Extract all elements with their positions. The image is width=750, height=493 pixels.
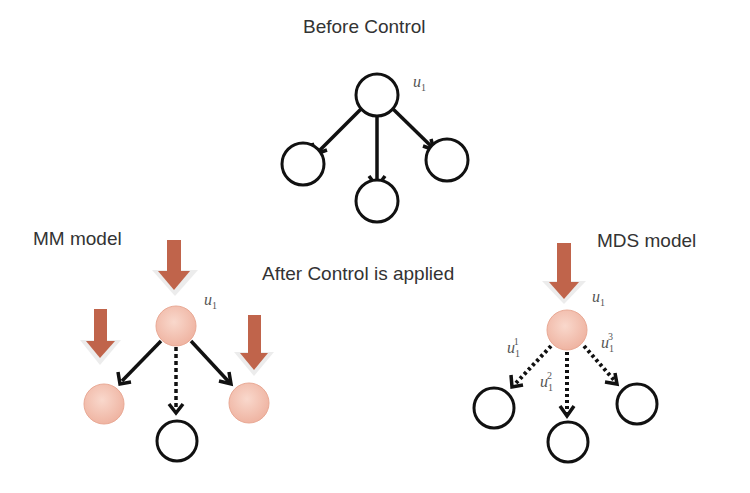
edge-top-left bbox=[318, 108, 362, 152]
node-child-middle bbox=[157, 421, 197, 461]
edge-top-right bbox=[392, 108, 433, 148]
label-u1-superscript-2: u12 bbox=[540, 370, 553, 393]
mds-model-graph: u1 u11 u12 u13 bbox=[474, 243, 657, 462]
label-u1: u1 bbox=[204, 291, 217, 311]
diagram-canvas: u1 u1 bbox=[0, 0, 750, 493]
control-arrow-icon bbox=[80, 309, 121, 365]
node-child-left bbox=[282, 143, 324, 185]
node-u1-controlled bbox=[156, 306, 196, 346]
control-arrow-icon bbox=[542, 243, 586, 304]
node-u1 bbox=[356, 74, 398, 116]
node-child-right bbox=[617, 384, 657, 424]
node-child-middle bbox=[548, 422, 588, 462]
edge-solid-right bbox=[191, 341, 229, 382]
control-arrow-icon bbox=[152, 240, 198, 296]
label-u1: u1 bbox=[592, 288, 605, 308]
label-u1-superscript-3: u13 bbox=[601, 331, 614, 354]
node-child-right bbox=[426, 139, 468, 181]
node-u1-controlled bbox=[547, 310, 587, 350]
node-child-middle bbox=[356, 180, 398, 222]
before-control-graph: u1 bbox=[282, 73, 468, 222]
control-arrow-icon bbox=[234, 315, 274, 376]
node-child-left bbox=[474, 388, 514, 428]
mm-model-graph: u1 bbox=[80, 240, 274, 461]
edge-solid-left bbox=[122, 341, 161, 381]
label-u1: u1 bbox=[413, 73, 426, 93]
label-u1-superscript-1: u11 bbox=[507, 336, 520, 359]
node-child-left-controlled bbox=[84, 384, 124, 424]
node-child-right-controlled bbox=[229, 383, 269, 423]
